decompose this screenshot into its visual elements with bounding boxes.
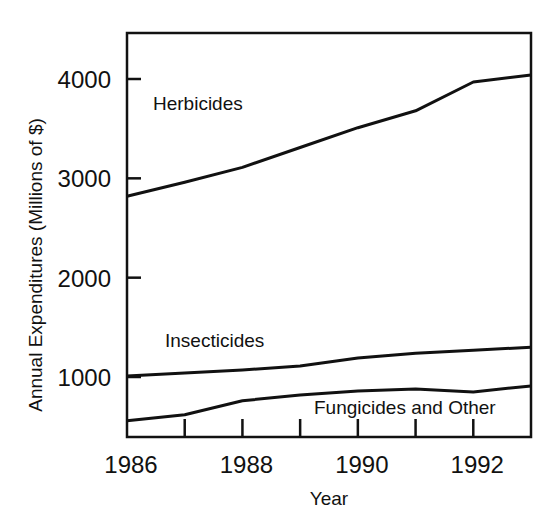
series-line-insecticides [127, 347, 531, 376]
series-label-insecticides: Insecticides [165, 330, 264, 351]
y-axis: 1000200030004000 [58, 66, 141, 391]
x-axis: 1986198819901992 [104, 419, 504, 478]
y-tick-label: 1000 [58, 364, 111, 391]
line-chart: 1000200030004000 1986198819901992 Herbic… [0, 0, 547, 525]
y-tick-label: 2000 [58, 265, 111, 292]
series-label-herbicides: Herbicides [153, 93, 243, 114]
y-axis-title: Annual Expenditures (Millions of $) [25, 118, 46, 412]
x-tick-label: 1986 [104, 451, 157, 478]
x-tick-label: 1988 [220, 451, 273, 478]
y-tick-label: 3000 [58, 165, 111, 192]
x-axis-title: Year [310, 488, 349, 509]
x-tick-label: 1992 [451, 451, 504, 478]
y-tick-label: 4000 [58, 66, 111, 93]
series-label-fungicides: Fungicides and Other [314, 397, 496, 418]
x-tick-label: 1990 [335, 451, 388, 478]
series-lines [127, 75, 531, 421]
